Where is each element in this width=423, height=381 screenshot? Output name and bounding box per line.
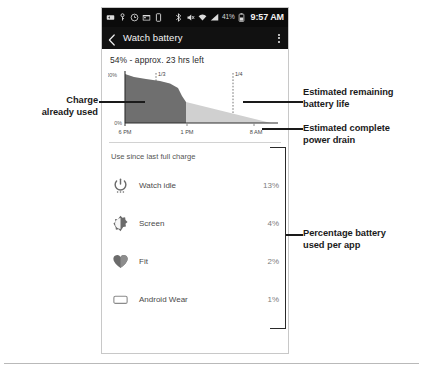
list-item[interactable]: Fit 2%: [111, 242, 279, 280]
leader-line-estimated-remaining: [243, 101, 303, 103]
callout-estimated-remaining: Estimated remaining battery life: [303, 87, 421, 111]
list-item-label: Android Wear: [139, 295, 188, 304]
gridline-label-1-4: 1/4: [235, 71, 243, 77]
wifi-icon: [198, 13, 207, 22]
battery-summary-text: 54% - approx. 23 hrs left: [102, 49, 288, 67]
list-item[interactable]: Watch idle 13%: [111, 166, 279, 204]
action-bar: Watch battery: [102, 27, 288, 49]
callout-line-2: power drain: [303, 135, 421, 147]
bracket-app-list: [270, 147, 286, 329]
status-bar-clock: 9:57 AM: [251, 13, 284, 22]
heart-icon: [111, 252, 129, 270]
callout-line-2: used per app: [303, 240, 421, 252]
list-item-label: Screen: [139, 219, 164, 228]
leader-line-estimated-drain: [262, 128, 303, 130]
callout-line-1: Estimated remaining: [303, 87, 421, 99]
charge-used-area: [125, 74, 186, 123]
battery-percent-label: 41%: [222, 14, 234, 21]
page-title: Watch battery: [123, 33, 183, 43]
key-icon: [118, 13, 127, 22]
battery-history-chart: 100% 0% 1/3 1/4 6 PM: [108, 67, 282, 139]
callout-line-1: Charge: [10, 95, 98, 107]
brightness-icon: [111, 214, 129, 232]
screenshot-root: 41% 9:57 AM Watch battery 54% - approx. …: [0, 0, 423, 381]
projected-drain-area: [186, 102, 271, 123]
list-item[interactable]: Screen 4%: [111, 204, 279, 242]
back-chevron-icon[interactable]: [108, 32, 116, 44]
x-tick-6pm: 6 PM: [118, 129, 131, 135]
list-item-label: Watch idle: [139, 181, 176, 190]
y-tick-0: 0%: [114, 120, 122, 126]
clock-icon: [130, 13, 139, 22]
callout-percentage-per-app: Percentage battery used per app: [303, 228, 421, 252]
x-tick-1pm: 1 PM: [180, 129, 193, 135]
phone-screenshot-frame: 41% 9:57 AM Watch battery 54% - approx. …: [101, 7, 289, 354]
callout-charge-already-used: Charge already used: [10, 95, 98, 119]
power-idle-icon: [111, 176, 129, 194]
leader-line-charge-used: [99, 101, 145, 103]
callout-line-2: already used: [10, 107, 98, 119]
mute-icon: [186, 13, 195, 22]
watch-screen-icon: [111, 290, 129, 308]
battery-usage-list: Watch idle 13% Screen 4%: [102, 166, 288, 318]
callout-line-2: battery life: [303, 99, 421, 111]
list-header-label: Use since last full charge: [102, 143, 288, 166]
y-tick-100: 100%: [108, 72, 117, 78]
bottom-divider: [4, 363, 419, 364]
battery-icon: [238, 13, 247, 22]
gridline-label-1-3: 1/3: [158, 71, 166, 77]
status-bar-left-icons: [106, 13, 163, 22]
phone-icon: [154, 13, 163, 22]
callout-line-1: Percentage battery: [303, 228, 421, 240]
x-tick-8am: 8 AM: [250, 129, 263, 135]
battery-chart-svg: 100% 0% 1/3 1/4 6 PM: [108, 67, 284, 139]
signal-icon: [210, 13, 219, 22]
leader-line-percentage-per-app: [286, 234, 303, 236]
sim-icon: [106, 13, 115, 22]
callout-line-1: Estimated complete: [303, 123, 421, 135]
overflow-menu-icon[interactable]: [276, 32, 282, 45]
list-item-label: Fit: [139, 257, 148, 266]
status-bar-right-icons: 41% 9:57 AM: [174, 13, 284, 22]
list-item[interactable]: Android Wear 1%: [111, 280, 279, 318]
bluetooth-icon: [174, 13, 183, 22]
android-status-bar: 41% 9:57 AM: [102, 8, 288, 27]
callout-estimated-drain: Estimated complete power drain: [303, 123, 421, 147]
calendar-icon: [142, 13, 151, 22]
